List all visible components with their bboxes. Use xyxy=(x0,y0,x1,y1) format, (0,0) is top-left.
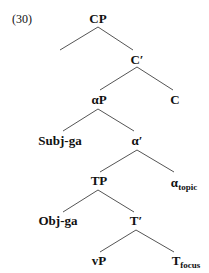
edge-tp-tbar xyxy=(98,190,134,212)
t-focus-subscript: focus xyxy=(180,260,200,270)
edge-alphap-alphabar xyxy=(98,109,134,131)
edge-cp-left xyxy=(60,27,98,50)
edge-cbar-alphap xyxy=(100,67,137,90)
node-alpha-topic: αtopic xyxy=(171,176,197,194)
node-t-bar: T′ xyxy=(130,214,142,228)
node-obj-ga: Obj-ga xyxy=(39,214,78,228)
node-cp: CP xyxy=(89,12,106,26)
node-c: C xyxy=(170,93,179,107)
node-tp: TP xyxy=(91,174,108,188)
edge-alphabar-alphatopic xyxy=(137,150,174,172)
node-subj-ga: Subj-ga xyxy=(38,134,81,148)
node-alpha-p: αP xyxy=(91,93,106,107)
edge-tbar-tfocus xyxy=(136,230,174,252)
tree-edges xyxy=(0,0,209,273)
node-vp: vP xyxy=(92,254,106,268)
alpha-topic-subscript: topic xyxy=(178,182,197,192)
edge-cbar-c xyxy=(137,67,173,90)
edge-tbar-vp xyxy=(100,230,136,252)
edge-alphap-subjga xyxy=(63,109,98,131)
node-alpha-bar: α′ xyxy=(132,134,143,148)
edge-cp-cbar xyxy=(98,27,133,50)
t-focus-base: T xyxy=(172,253,181,268)
edge-alphabar-tp xyxy=(100,150,137,172)
edge-tp-objga xyxy=(63,190,98,212)
node-c-bar: C′ xyxy=(130,53,143,67)
node-t-focus: Tfocus xyxy=(172,254,201,272)
